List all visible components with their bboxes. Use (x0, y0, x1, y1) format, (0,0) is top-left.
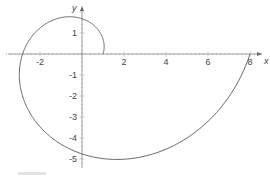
y-tick-label: -4 (69, 133, 77, 143)
x-tick-label: 6 (205, 57, 210, 67)
y-tick-label: -1 (69, 70, 77, 80)
caption-placeholder (18, 172, 46, 175)
y-axis-label: y (71, 3, 77, 13)
x-axis-label: x (263, 56, 269, 66)
x-tick-label: 4 (163, 57, 168, 67)
x-axis-arrow-icon (257, 52, 262, 56)
y-tick-label: -2 (69, 91, 77, 101)
y-tick-label: -5 (69, 154, 77, 164)
spiral-curve (19, 17, 250, 160)
chart: -224681-1-2-3-4-5xy (0, 0, 270, 181)
y-axis-arrow-icon (80, 6, 84, 11)
y-tick-label: 1 (72, 28, 77, 38)
y-tick-label: -3 (69, 112, 77, 122)
spiral-plot: -224681-1-2-3-4-5xy (0, 0, 270, 181)
x-tick-label: 2 (121, 57, 126, 67)
x-tick-label: -2 (36, 57, 44, 67)
